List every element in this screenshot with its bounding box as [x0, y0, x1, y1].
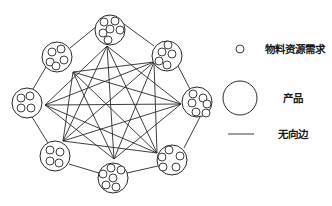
material-resource-circle [107, 164, 115, 172]
material-resource-circle [104, 36, 112, 44]
ring-edge [69, 164, 99, 173]
product-nodes [12, 15, 212, 193]
legend-label-product: 产品 [283, 93, 303, 104]
inner-edge [154, 62, 157, 153]
material-resource-circle [159, 163, 167, 171]
material-resource-circle [189, 90, 197, 98]
inner-edge [107, 46, 157, 153]
material-resource-circle [168, 50, 176, 58]
ring-edge [184, 117, 200, 148]
material-resource-circle [163, 61, 171, 69]
material-resource-circle [27, 104, 35, 112]
material-resource-circle [56, 148, 64, 156]
inner-edge [107, 46, 114, 159]
material-resource-circle [165, 146, 173, 154]
material-resource-circle [46, 146, 54, 154]
product-node-bottom-right [157, 145, 187, 175]
material-resource-circle [99, 29, 107, 37]
legend-label-material-resource: 物料资源需求 [265, 44, 325, 55]
material-resource-circle [164, 41, 172, 49]
material-resource-circle [102, 181, 110, 189]
product-node-bottom-left [40, 141, 70, 171]
legend-label-undirected-edge: 无向边 [278, 129, 308, 140]
ring-edge [127, 166, 158, 173]
material-resource-circle [100, 18, 108, 26]
ring-edge [32, 117, 48, 143]
ring-edge [124, 24, 154, 46]
material-resource-circle [52, 62, 60, 70]
material-resource-circle [192, 108, 200, 116]
inner-edge [45, 104, 181, 105]
product-circle [12, 88, 42, 118]
material-resource-circle [176, 152, 184, 160]
product-node-left [12, 88, 42, 118]
product-node-bottom [98, 163, 128, 193]
legend-material-resource-icon [236, 45, 244, 53]
material-resource-circle [116, 26, 124, 34]
material-resource-circle [109, 174, 117, 182]
ring-edge [178, 66, 190, 89]
material-resource-circle [158, 48, 166, 56]
ring-edge [70, 26, 97, 48]
material-resource-circle [155, 57, 163, 65]
product-circle [40, 141, 70, 171]
material-resource-circle [99, 170, 107, 178]
material-resource-circle [188, 99, 196, 107]
product-node-top-left [42, 42, 72, 72]
material-resource-circle [55, 159, 63, 167]
material-resource-circle [111, 17, 119, 25]
product-node-right [182, 87, 212, 117]
product-node-top [95, 15, 125, 45]
material-resource-circle [48, 48, 56, 56]
material-resource-circle [202, 109, 210, 117]
ring-edge [33, 67, 46, 89]
material-resource-circle [57, 45, 65, 53]
material-resource-circle [17, 104, 25, 112]
material-resource-circle [17, 94, 25, 102]
material-resource-circle [158, 153, 166, 161]
material-resource-circle [172, 163, 180, 171]
inner-edge [63, 104, 181, 141]
material-resource-circle [26, 92, 34, 100]
material-resource-circle [60, 56, 68, 64]
legend-product-icon [223, 81, 257, 115]
inner-edge [73, 72, 114, 159]
material-resource-circle [203, 100, 211, 108]
legend-symbols [223, 45, 257, 134]
material-resource-circle [46, 157, 54, 165]
material-resource-circle [117, 166, 125, 174]
material-resource-circle [112, 183, 120, 191]
product-node-top-right [152, 41, 182, 71]
